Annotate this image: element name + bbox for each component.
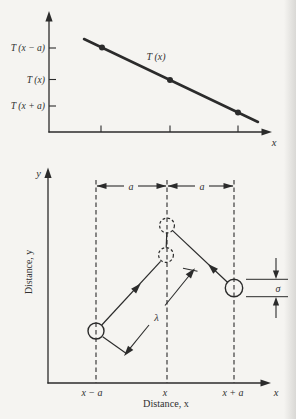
top-y-axis-arrowhead [45, 11, 52, 22]
curve-label: T (x) [147, 51, 167, 63]
temperature-gradient-graph: T (x − a) T (x) T (x + a) T (x) x [11, 11, 277, 148]
spacing-label-left: a [129, 181, 134, 192]
top-x-axis-arrowhead [262, 128, 273, 135]
free-path-stub [103, 337, 126, 353]
physics-figure: T (x − a) T (x) T (x + a) T (x) x y x Di… [0, 0, 296, 419]
bottom-y-axis-caption: Distance, y [23, 250, 34, 294]
bottom-y-axis-arrowhead [44, 168, 51, 179]
spacing-left-arrowhead-in [157, 183, 167, 189]
spacing-label-right: a [200, 181, 205, 192]
data-point-x [167, 77, 173, 83]
diameter-label: σ [276, 283, 282, 294]
y-tick-label-T-x: T (x) [27, 74, 45, 86]
free-path-diagram: y x Distance, y Distance, x a a [23, 168, 288, 410]
data-point-x-plus-a [235, 110, 241, 116]
diameter-upper-arrowhead [273, 271, 279, 279]
y-tick-label-T-x-minus-a: T (x − a) [11, 42, 45, 54]
top-x-axis-label: x [271, 137, 277, 148]
spacing-dimension-right: a [168, 181, 234, 192]
diameter-lower-arrowhead [273, 297, 279, 305]
bottom-y-axis-symbol: y [35, 168, 41, 179]
free-path-segment-upper [165, 272, 193, 306]
spacing-right-arrowhead-out [224, 183, 234, 189]
x-tick-label-x-plus-a: x + a [221, 387, 243, 398]
spacing-dimension-left: a [97, 181, 167, 192]
bottom-x-axis-caption: Distance, x [143, 398, 189, 409]
free-path-arrowhead-lower [121, 346, 133, 358]
ghost-particles-connector [166, 233, 167, 248]
free-path-label: λ [153, 312, 159, 323]
x-tick-label-x-minus-a: x − a [80, 387, 102, 398]
trajectory-right [173, 231, 228, 283]
ghost-particle-lower [159, 248, 174, 263]
free-path-dimension: λ [103, 266, 198, 358]
data-point-x-minus-a [99, 45, 105, 51]
scanned-figure-page: T (x − a) T (x) T (x + a) T (x) x y x Di… [0, 0, 296, 419]
free-path-arrowhead-upper [186, 266, 198, 278]
y-tick-label-T-x-plus-a: T (x + a) [11, 100, 45, 112]
diameter-dimension: σ [246, 258, 288, 318]
bottom-x-axis-arrowhead [261, 379, 272, 386]
bottom-x-axis-symbol: x [273, 387, 279, 398]
spacing-left-arrowhead-out [97, 183, 107, 189]
free-path-end-tick [183, 268, 198, 271]
spacing-right-arrowhead-in [168, 183, 178, 189]
trajectory-left [102, 261, 161, 325]
x-tick-label-x: x [162, 387, 168, 398]
